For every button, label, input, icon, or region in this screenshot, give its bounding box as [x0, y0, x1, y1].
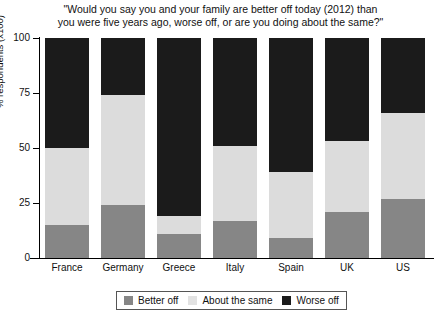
segment-better-off	[325, 212, 369, 258]
chart-title: "Would you say you and your family are b…	[0, 3, 441, 29]
segment-worse-off	[213, 38, 257, 146]
chart-legend: Better off About the same Worse off	[116, 291, 347, 310]
y-tick-label-25: 25	[0, 198, 30, 208]
bar-group	[40, 38, 434, 258]
segment-about-the-same	[213, 146, 257, 221]
legend-item-about-the-same: About the same	[188, 295, 272, 306]
segment-worse-off	[45, 38, 89, 148]
segment-better-off	[45, 225, 89, 258]
segment-about-the-same	[157, 216, 201, 234]
segment-about-the-same	[45, 148, 89, 225]
bar-uk	[325, 38, 369, 258]
legend-label-about-the-same: About the same	[202, 295, 272, 306]
y-tick-0	[33, 258, 40, 259]
legend-label-better-off: Better off	[138, 295, 178, 306]
segment-better-off	[381, 199, 425, 258]
segment-worse-off	[325, 38, 369, 141]
y-tick-75	[33, 93, 40, 94]
segment-about-the-same	[101, 95, 145, 205]
segment-better-off	[101, 205, 145, 258]
x-axis-label-us: US	[368, 262, 438, 273]
bar-us	[381, 38, 425, 258]
legend-swatch-about-the-same	[188, 296, 197, 305]
legend-swatch-worse-off	[282, 296, 291, 305]
segment-about-the-same	[381, 113, 425, 199]
bar-greece	[157, 38, 201, 258]
legend-label-worse-off: Worse off	[296, 295, 338, 306]
segment-better-off	[213, 221, 257, 258]
chart-title-line-1: "Would you say you and your family are b…	[0, 3, 441, 16]
bar-spain	[269, 38, 313, 258]
segment-better-off	[269, 238, 313, 258]
bar-germany	[101, 38, 145, 258]
legend-item-better-off: Better off	[124, 295, 178, 306]
bar-france	[45, 38, 89, 258]
chart-figure: "Would you say you and your family are b…	[0, 0, 441, 318]
segment-better-off	[157, 234, 201, 258]
segment-worse-off	[101, 38, 145, 95]
y-tick-100	[33, 38, 40, 39]
bar-italy	[213, 38, 257, 258]
segment-about-the-same	[269, 172, 313, 238]
legend-swatch-better-off	[124, 296, 133, 305]
y-tick-label-0: 0	[0, 253, 30, 263]
segment-worse-off	[381, 38, 425, 113]
y-tick-25	[33, 203, 40, 204]
y-tick-label-100: 100	[0, 33, 30, 43]
y-tick-label-50: 50	[0, 143, 30, 153]
x-axis-line	[30, 258, 434, 259]
segment-about-the-same	[325, 141, 369, 211]
plot-area	[40, 38, 434, 258]
y-tick-50	[33, 148, 40, 149]
legend-item-worse-off: Worse off	[282, 295, 338, 306]
segment-worse-off	[269, 38, 313, 172]
segment-worse-off	[157, 38, 201, 216]
chart-title-line-2: you were five years ago, worse off, or a…	[0, 16, 441, 29]
y-tick-label-75: 75	[0, 88, 30, 98]
